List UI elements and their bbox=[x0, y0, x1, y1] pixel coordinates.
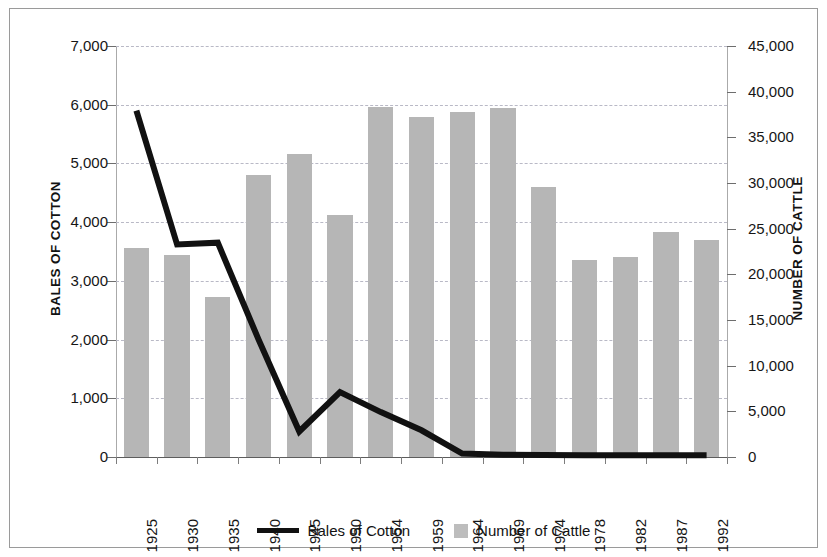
y-axis-left-tick-label: 1,000 bbox=[70, 390, 108, 405]
y-axis-left-tick bbox=[107, 163, 116, 164]
x-axis-labels: 1925193019351940194519501954195919641969… bbox=[116, 465, 727, 523]
y-axis-right-tick bbox=[727, 92, 736, 93]
y-axis-left-tick bbox=[107, 105, 116, 106]
y-axis-right-tick bbox=[727, 320, 736, 321]
x-axis-tick bbox=[157, 457, 158, 464]
line-swatch-icon bbox=[257, 528, 299, 533]
x-axis-tick bbox=[523, 457, 524, 464]
y-axis-left-tick-label: 7,000 bbox=[70, 38, 108, 53]
y-axis-right-tick-label: 5,000 bbox=[748, 403, 786, 418]
x-axis-tick bbox=[727, 457, 728, 464]
x-axis-tick bbox=[320, 457, 321, 464]
y-axis-right-tick bbox=[727, 229, 736, 230]
x-axis-tick bbox=[238, 457, 239, 464]
y-axis-right-tick bbox=[727, 411, 736, 412]
y-axis-right-tick bbox=[727, 46, 736, 47]
y-axis-right-tick-label: 15,000 bbox=[748, 312, 794, 327]
x-axis-tick bbox=[401, 457, 402, 464]
y-axis-right-tick bbox=[727, 137, 736, 138]
cotton-line-path bbox=[136, 111, 706, 456]
x-axis-tick bbox=[116, 457, 117, 464]
box-swatch-icon bbox=[454, 524, 468, 538]
line-series-bales-of-cotton bbox=[116, 46, 727, 457]
y-axis-right-tick-label: 40,000 bbox=[748, 84, 794, 99]
y-axis-right-tick bbox=[727, 274, 736, 275]
plot-area: 01,0002,0003,0004,0005,0006,0007,000 05,… bbox=[116, 46, 727, 457]
y-axis-right-tick-label: 35,000 bbox=[748, 129, 794, 144]
y-axis-right-tick bbox=[727, 457, 736, 458]
legend-item-number-of-cattle: Number of Cattle bbox=[454, 522, 590, 539]
y-axis-right-tick-label: 45,000 bbox=[748, 38, 794, 53]
legend-label-number-of-cattle: Number of Cattle bbox=[477, 522, 590, 539]
y-axis-left-tick bbox=[107, 340, 116, 341]
y-axis-left-tick-label: 6,000 bbox=[70, 97, 108, 112]
x-axis-tick bbox=[483, 457, 484, 464]
y-axis-right-tick-label: 20,000 bbox=[748, 266, 794, 281]
y-axis-left-tick-label: 0 bbox=[100, 449, 108, 464]
y-axis-right-tick-label: 0 bbox=[748, 449, 756, 464]
x-axis-tick bbox=[197, 457, 198, 464]
y-axis-left-tick-label: 4,000 bbox=[70, 214, 108, 229]
legend-item-bales-of-cotton: Bales of Cotton bbox=[257, 522, 411, 539]
chart-figure: BALES OF COTTON NUMBER OF CATTLE 01,0002… bbox=[0, 0, 827, 557]
x-axis-tick bbox=[442, 457, 443, 464]
y-axis-right-spine bbox=[727, 46, 728, 457]
y-axis-right-tick-label: 25,000 bbox=[748, 221, 794, 236]
legend-label-bales-of-cotton: Bales of Cotton bbox=[308, 522, 411, 539]
y-axis-right-tick bbox=[727, 366, 736, 367]
x-axis-tick bbox=[360, 457, 361, 464]
y-axis-left-tick-label: 2,000 bbox=[70, 332, 108, 347]
y-axis-left-title: BALES OF COTTON bbox=[48, 149, 63, 349]
y-axis-left-tick bbox=[107, 457, 116, 458]
y-axis-left-tick bbox=[107, 398, 116, 399]
y-axis-left-tick bbox=[107, 281, 116, 282]
y-axis-left-tick bbox=[107, 46, 116, 47]
chart-frame: BALES OF COTTON NUMBER OF CATTLE 01,0002… bbox=[9, 8, 818, 548]
y-axis-left-tick bbox=[107, 222, 116, 223]
y-axis-right-tick-label: 10,000 bbox=[748, 358, 794, 373]
chart-legend: Bales of Cotton Number of Cattle bbox=[19, 522, 827, 539]
y-axis-left-tick-label: 3,000 bbox=[70, 273, 108, 288]
y-axis-left-tick-label: 5,000 bbox=[70, 155, 108, 170]
x-axis-tick bbox=[279, 457, 280, 464]
y-axis-right-tick bbox=[727, 183, 736, 184]
y-axis-right-tick-label: 30,000 bbox=[748, 175, 794, 190]
